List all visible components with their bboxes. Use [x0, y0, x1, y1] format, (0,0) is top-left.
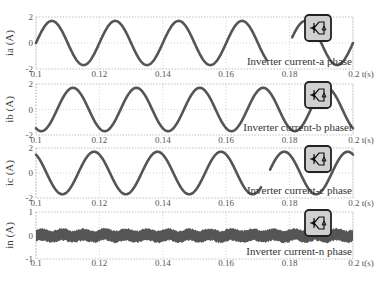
inverter-icon — [305, 146, 331, 172]
y-tick-label: 0 — [29, 168, 34, 178]
y-tick-label: 2 — [29, 79, 34, 89]
legend-label: Inverter current-a phase — [247, 55, 352, 67]
y-tick-label: 0 — [29, 38, 34, 48]
y-axis-label: ic (A) — [3, 160, 16, 186]
x-tick-label: 0.14 — [155, 198, 171, 208]
y-axis-label: ia (A) — [3, 30, 16, 56]
x-tick-label: 0.2 t(s) — [348, 69, 374, 79]
x-tick-label: 0.12 — [92, 258, 108, 268]
y-tick-label: 0 — [29, 105, 34, 115]
y-tick-label: 2 — [29, 12, 34, 22]
x-tick-label: 0.14 — [155, 135, 171, 145]
x-tick-label: 0.1 — [30, 258, 41, 268]
x-tick-label: 0.16 — [218, 69, 234, 79]
x-tick-label: 0.18 — [282, 258, 298, 268]
figure: 20-2ia (A)0.10.120.140.160.180.2 t(s)Inv… — [0, 0, 389, 285]
x-tick-label: 0.14 — [155, 69, 171, 79]
inverter-icon — [305, 15, 331, 41]
x-tick-label: 0.2 t(s) — [348, 198, 374, 208]
x-tick-label: 0.1 — [30, 69, 41, 79]
inverter-icon — [305, 82, 331, 108]
panel-ib: 20-2ib (A)0.10.120.140.160.180.2 t(s)Inv… — [3, 79, 374, 145]
x-tick-label: 0.2 t(s) — [348, 258, 374, 268]
x-tick-label: 0.18 — [282, 135, 298, 145]
y-axis-label: in (A) — [3, 222, 16, 249]
trace-ia — [36, 21, 267, 65]
y-tick-label: 2 — [29, 143, 34, 153]
legend-label: Inverter current-n phase — [246, 245, 352, 257]
x-tick-label: 0.16 — [218, 198, 234, 208]
y-axis-label: ib (A) — [3, 96, 16, 123]
x-tick-label: 0.16 — [218, 258, 234, 268]
legend-label: Inverter current-c phase — [247, 184, 352, 196]
x-tick-label: 0.16 — [218, 135, 234, 145]
x-tick-label: 0.2 t(s) — [348, 135, 374, 145]
legend-label: Inverter current-b phaset — [243, 121, 352, 133]
x-tick-label: 0.18 — [282, 69, 298, 79]
x-tick-label: 0.18 — [282, 198, 298, 208]
x-tick-label: 0.14 — [155, 258, 171, 268]
x-tick-label: 0.12 — [92, 198, 108, 208]
x-tick-label: 0.12 — [92, 69, 108, 79]
x-tick-label: 0.12 — [92, 135, 108, 145]
y-tick-label: 0 — [29, 231, 34, 241]
panel-ic: 20-2ic (A)0.10.120.140.160.180.2 t(s)Inv… — [3, 143, 374, 208]
y-tick-label: 1 — [29, 207, 34, 217]
panel-ia: 20-2ia (A)0.10.120.140.160.180.2 t(s)Inv… — [3, 12, 374, 79]
panel-in: 10-1in (A)0.10.120.140.160.180.2 t(s)Inv… — [3, 207, 374, 268]
inverter-icon — [305, 210, 331, 236]
